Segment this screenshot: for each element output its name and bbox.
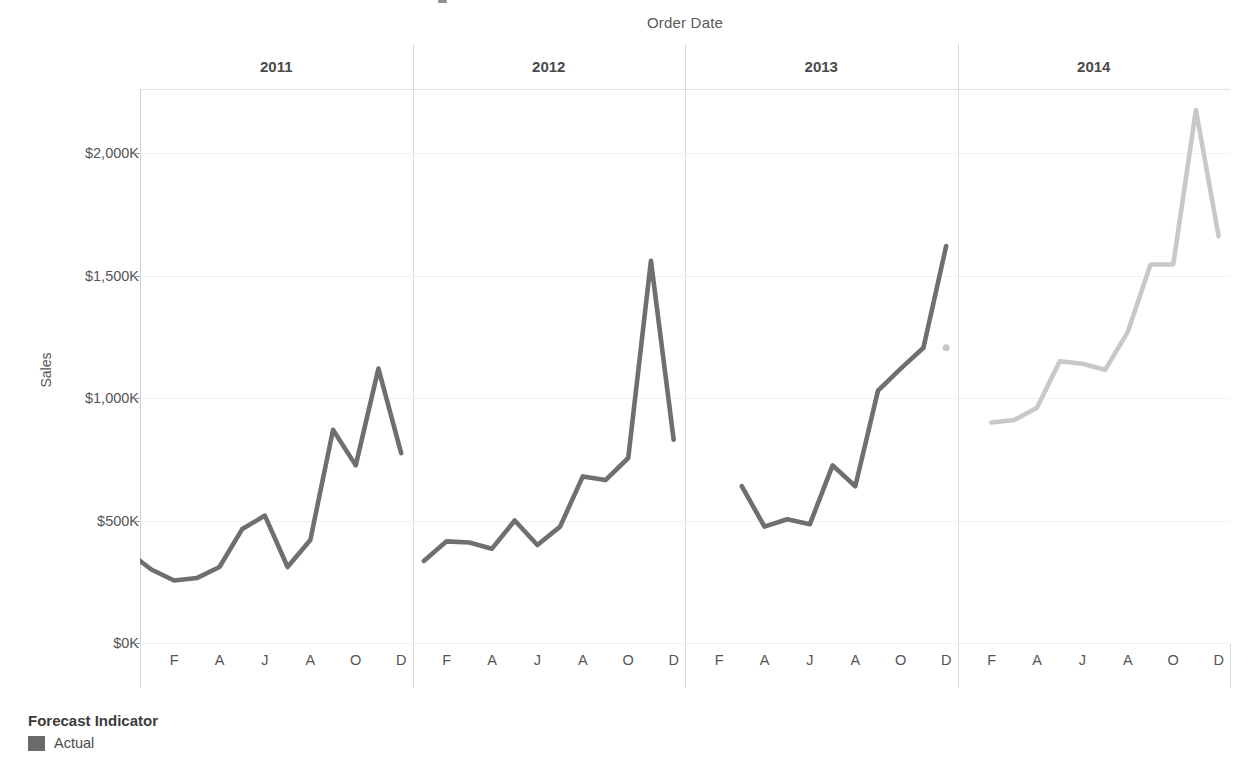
x-tick-label: J [250, 652, 280, 668]
x-tick-label: J [795, 652, 825, 668]
y-tick-mark [133, 521, 140, 522]
x-tick-label: J [1067, 652, 1097, 668]
x-tick-label: A [749, 652, 779, 668]
y-tick-mark [133, 276, 140, 277]
y-tick-label: $1,500K [85, 268, 139, 284]
x-tick-label: O [886, 652, 916, 668]
line-series-actual-2011[interactable] [140, 369, 401, 581]
legend-item-actual[interactable]: Actual [28, 735, 158, 751]
x-tick-label: A [295, 652, 325, 668]
panel-header-band: 2011201220132014 [140, 44, 1230, 90]
x-axis-title: Order Date [140, 14, 1230, 31]
series-layer [140, 89, 1230, 643]
y-tick-mark [133, 643, 140, 644]
x-panel-tick [685, 644, 686, 688]
panel-header-separator [958, 44, 959, 89]
x-tick-label: F [704, 652, 734, 668]
x-panel-tick [958, 644, 959, 688]
panel-header-separator [685, 44, 686, 89]
x-tick-label: A [204, 652, 234, 668]
x-tick-label: O [1158, 652, 1188, 668]
panel-header-separator [413, 44, 414, 89]
line-series-forecast-2014[interactable] [992, 110, 1219, 422]
x-tick-label: O [341, 652, 371, 668]
x-tick-label: F [432, 652, 462, 668]
line-series-actual-2013[interactable] [742, 246, 946, 527]
plot-area[interactable] [140, 89, 1230, 643]
legend-title: Forecast Indicator [28, 712, 158, 729]
line-series-actual-2012[interactable] [424, 261, 674, 561]
x-tick-label: J [522, 652, 552, 668]
y-tick-mark [133, 153, 140, 154]
x-panel-tick [1230, 644, 1231, 688]
data-point-forecast-2013[interactable] [943, 344, 950, 351]
x-tick-label: O [613, 652, 643, 668]
x-tick-label: A [568, 652, 598, 668]
gridline [140, 643, 1230, 644]
x-tick-label: F [977, 652, 1007, 668]
panel-header-2011[interactable]: 2011 [140, 44, 413, 89]
x-tick-label: A [840, 652, 870, 668]
y-axis-title: Sales [38, 310, 54, 430]
x-tick-label: A [477, 652, 507, 668]
panel-header-2014[interactable]: 2014 [958, 44, 1231, 89]
legend: Forecast Indicator Actual [28, 712, 158, 751]
clipped-marker [438, 0, 447, 3]
x-tick-label: F [159, 652, 189, 668]
y-tick-label: $2,000K [85, 145, 139, 161]
legend-color-swatch [28, 736, 45, 751]
x-panel-tick [140, 644, 141, 688]
legend-item-label: Actual [54, 735, 94, 751]
x-tick-label: A [1113, 652, 1143, 668]
y-tick-label: $1,000K [85, 390, 139, 406]
panel-header-2013[interactable]: 2013 [685, 44, 958, 89]
y-tick-mark [133, 398, 140, 399]
x-panel-tick [413, 644, 414, 688]
chart-root: Order Date 2011201220132014 Sales $2,000… [0, 0, 1254, 772]
x-tick-label: A [1022, 652, 1052, 668]
panel-header-2012[interactable]: 2012 [413, 44, 686, 89]
